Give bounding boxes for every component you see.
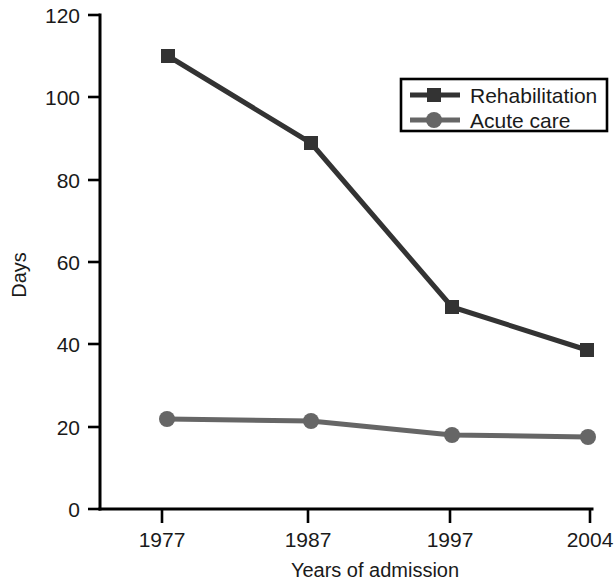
y-tick-label-20: 20 <box>57 416 80 439</box>
rehabilitation-point-1997 <box>445 300 459 314</box>
square-marker-icon <box>427 88 441 102</box>
rehabilitation-point-1987 <box>304 136 318 150</box>
chart-canvas: 120 100 80 60 40 20 0 1977 1987 1997 200… <box>0 0 616 580</box>
line-chart: 120 100 80 60 40 20 0 1977 1987 1997 200… <box>0 0 616 580</box>
acute-care-point-1977 <box>159 411 175 427</box>
y-tick-label-120: 120 <box>45 4 80 27</box>
y-tick-label-0: 0 <box>68 498 80 521</box>
legend-label-rehabilitation: Rehabilitation <box>470 84 597 107</box>
y-axis-title: Days <box>8 252 30 298</box>
circle-marker-icon <box>426 112 442 128</box>
x-tick-label-2004: 2004 <box>567 528 614 551</box>
rehabilitation-point-1977 <box>161 49 175 63</box>
x-axis-title: Years of admission <box>291 559 459 580</box>
acute-care-point-1987 <box>303 413 319 429</box>
y-tick-label-100: 100 <box>45 86 80 109</box>
y-tick-label-60: 60 <box>57 251 80 274</box>
y-tick-label-40: 40 <box>57 333 80 356</box>
rehabilitation-point-2004 <box>580 343 594 357</box>
x-axis-ticks <box>162 509 590 523</box>
x-tick-label-1997: 1997 <box>427 528 474 551</box>
acute-care-point-2004 <box>580 429 596 445</box>
x-tick-label-1987: 1987 <box>285 528 332 551</box>
y-axis-ticks <box>88 15 100 509</box>
acute-care-line <box>167 419 588 437</box>
x-tick-label-1977: 1977 <box>139 528 186 551</box>
chart-legend: Rehabilitation Acute care <box>401 79 607 132</box>
y-tick-label-80: 80 <box>57 169 80 192</box>
series-acute-care <box>159 411 596 445</box>
legend-label-acute-care: Acute care <box>470 109 570 132</box>
acute-care-point-1997 <box>444 427 460 443</box>
